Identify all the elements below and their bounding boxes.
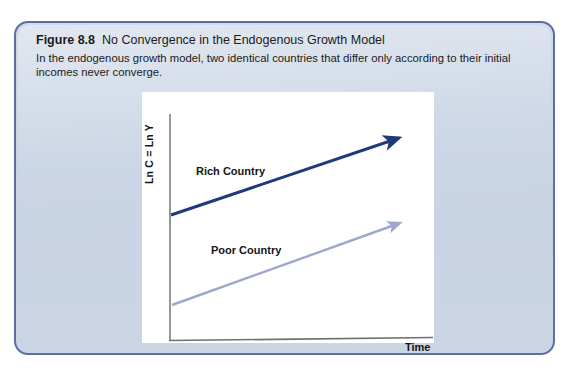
figure-heading: No Convergence in the Endogenous Growth … (102, 33, 385, 47)
y-axis-label: Ln C = Ln Y (140, 106, 158, 202)
chart-card: Ln C = Ln Y Rich Country Poor Country (142, 92, 434, 343)
rich-country-label: Rich Country (196, 165, 265, 177)
figure-description: In the endogenous growth model, two iden… (36, 51, 540, 80)
x-axis-line (169, 338, 433, 341)
y-axis-label-text: Ln C = Ln Y (143, 124, 155, 184)
x-axis-label: Time (405, 341, 430, 353)
poor-country-line (172, 223, 400, 305)
poor-country-label: Poor Country (211, 244, 281, 256)
figure-title: Figure 8.8 No Convergence in the Endogen… (36, 33, 536, 49)
figure-panel: Figure 8.8 No Convergence in the Endogen… (14, 21, 555, 355)
figure-caption-block: Figure 8.8 No Convergence in the Endogen… (36, 33, 536, 80)
figure-number: Figure 8.8 (36, 33, 95, 47)
growth-model-chart (142, 92, 434, 343)
